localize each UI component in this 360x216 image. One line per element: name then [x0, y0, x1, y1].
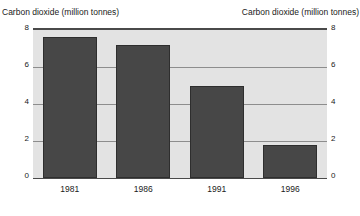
category-label-1996: 1996: [254, 184, 328, 194]
bar-slot: [107, 30, 181, 178]
right-tick-8: 8: [331, 24, 335, 32]
right-tick-6: 6: [331, 61, 335, 69]
left-tick-2: 2: [25, 135, 29, 143]
bar-1986: [116, 45, 170, 178]
category-label-1986: 1986: [107, 184, 181, 194]
left-tick-6: 6: [25, 61, 29, 69]
bar-1991: [190, 86, 244, 179]
right-axis-title: Carbon dioxide (million tonnes): [242, 7, 359, 18]
right-tick-4: 4: [331, 98, 335, 106]
bar-1981: [43, 37, 97, 178]
bar-chart: Carbon dioxide (million tonnes) Carbon d…: [0, 0, 360, 216]
bar-slot: [33, 30, 107, 178]
x-axis-category-labels: 1981198619911996: [33, 184, 327, 194]
right-tick-2: 2: [331, 135, 335, 143]
left-axis-tick-labels: 86420: [3, 28, 29, 176]
left-tick-4: 4: [25, 98, 29, 106]
right-tick-0: 0: [331, 172, 335, 180]
plot-area: [33, 28, 327, 179]
category-label-1991: 1991: [180, 184, 254, 194]
bars-layer: [33, 30, 327, 178]
bar-slot: [254, 30, 328, 178]
left-axis-title: Carbon dioxide (million tonnes): [2, 7, 119, 18]
bar-slot: [180, 30, 254, 178]
right-axis-tick-labels: 86420: [331, 28, 357, 176]
left-tick-8: 8: [25, 24, 29, 32]
bar-1996: [263, 145, 317, 178]
left-tick-0: 0: [25, 172, 29, 180]
category-label-1981: 1981: [33, 184, 107, 194]
